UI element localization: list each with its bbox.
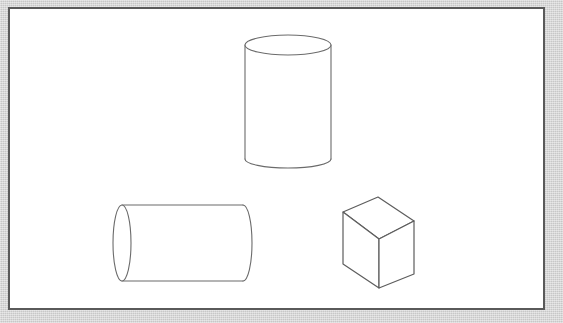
upright-cylinder-bottom-arc xyxy=(245,159,331,168)
screenshot-root: Geometric Solids Line Drawing xyxy=(0,0,563,323)
shape-upright-cylinder xyxy=(245,35,331,168)
lying-cylinder-right-arc xyxy=(243,205,252,281)
solids-line-drawing-svg xyxy=(0,0,563,323)
shape-cube xyxy=(343,197,414,288)
upright-cylinder-top-ellipse xyxy=(245,35,331,55)
drawing-canvas xyxy=(0,0,563,323)
shape-lying-cylinder xyxy=(113,205,252,281)
lying-cylinder-left-ellipse xyxy=(113,205,131,281)
